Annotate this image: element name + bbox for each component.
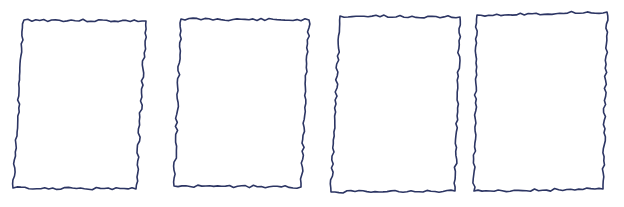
frame-2-border <box>174 18 310 188</box>
hand-drawn-frames-canvas <box>0 0 624 207</box>
frame-3-border <box>330 15 460 193</box>
frame-4-border <box>473 12 608 192</box>
frames-group <box>13 12 608 193</box>
frame-1-border <box>13 19 147 190</box>
